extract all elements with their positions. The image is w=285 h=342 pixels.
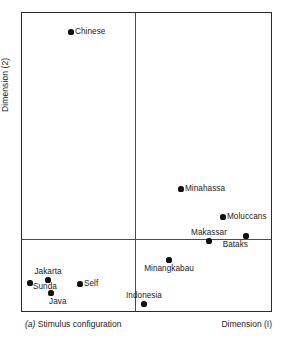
data-point-marker xyxy=(68,29,73,34)
data-point-label: Sunda xyxy=(33,282,57,291)
data-point-marker xyxy=(178,186,183,191)
data-point-label: Moluccans xyxy=(227,212,267,221)
data-point-marker xyxy=(220,214,225,219)
caption-left: (a) Stimulus configuration xyxy=(25,318,121,330)
data-point-marker xyxy=(206,238,211,243)
data-point-label: Minahassa xyxy=(185,184,225,193)
data-point-marker xyxy=(141,301,146,306)
data-point-marker xyxy=(27,280,32,285)
data-point-label: Java xyxy=(49,297,67,306)
caption-marker: (a) xyxy=(25,319,35,329)
data-point-marker xyxy=(48,290,53,295)
y-axis-label: Dimension (2) xyxy=(0,12,14,112)
data-point-marker xyxy=(77,281,82,286)
data-point-label: Makassar xyxy=(191,228,227,237)
data-point-label: Jakarta xyxy=(34,267,61,276)
data-point-marker xyxy=(243,233,248,238)
x-axis-label: Dimension (I) xyxy=(221,318,272,330)
vertical-zero-axis xyxy=(135,13,136,311)
data-point-label: Chinese xyxy=(75,27,105,36)
y-axis-label-text: Dimension (2) xyxy=(0,12,10,112)
data-point-label: Minangkabau xyxy=(144,264,194,273)
data-point-marker xyxy=(166,257,171,262)
data-point-label: Indonesia xyxy=(126,291,162,300)
data-point-label: Self xyxy=(84,279,98,288)
data-point-label: Bataks xyxy=(223,240,248,249)
scatter-figure: Dimension (2) ChineseMinahassaMoluccansM… xyxy=(0,0,285,342)
caption-text: Stimulus configuration xyxy=(38,319,122,329)
figure-caption: (a) Stimulus configuration Dimension (I) xyxy=(21,318,272,334)
plot-area: ChineseMinahassaMoluccansMakassarBataksM… xyxy=(21,12,272,312)
